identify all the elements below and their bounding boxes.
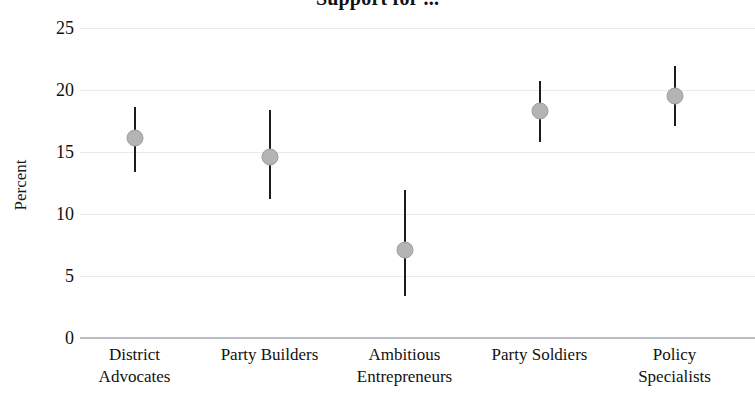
x-tick-label-line: Specialists bbox=[600, 366, 750, 388]
gridline bbox=[80, 214, 755, 215]
gridline bbox=[80, 90, 755, 91]
y-tick-label: 25 bbox=[40, 19, 74, 37]
gridline bbox=[80, 276, 755, 277]
y-axis-label: Percent bbox=[6, 120, 36, 250]
x-tick-label-line: Advocates bbox=[60, 366, 210, 388]
y-axis-label-text: Percent bbox=[11, 160, 31, 211]
x-tick-label: AmbitiousEntrepreneurs bbox=[330, 344, 480, 388]
x-axis-tick-labels: DistrictAdvocatesParty BuildersAmbitious… bbox=[80, 344, 755, 410]
data-point-marker bbox=[531, 103, 548, 120]
chart-figure: Support for ... Percent 0510152025 Distr… bbox=[0, 0, 755, 412]
y-tick-label: 5 bbox=[40, 267, 74, 285]
x-tick-label: PolicySpecialists bbox=[600, 344, 750, 388]
x-tick-label: Party Builders bbox=[195, 344, 345, 366]
gridline bbox=[80, 28, 755, 29]
y-tick-label: 20 bbox=[40, 81, 74, 99]
x-tick-label-line: Party Builders bbox=[195, 344, 345, 366]
data-point-marker bbox=[261, 148, 278, 165]
y-tick-label: 10 bbox=[40, 205, 74, 223]
y-tick-label: 15 bbox=[40, 143, 74, 161]
axis-baseline bbox=[80, 337, 755, 339]
data-point-marker bbox=[396, 241, 413, 258]
x-tick-label: Party Soldiers bbox=[465, 344, 615, 366]
x-tick-label-line: Ambitious bbox=[330, 344, 480, 366]
x-tick-label-line: Entrepreneurs bbox=[330, 366, 480, 388]
data-point-marker bbox=[126, 130, 143, 147]
x-tick-label-line: Party Soldiers bbox=[465, 344, 615, 366]
data-point-marker bbox=[666, 88, 683, 105]
x-tick-label-line: Policy bbox=[600, 344, 750, 366]
gridline bbox=[80, 152, 755, 153]
x-tick-label: DistrictAdvocates bbox=[60, 344, 210, 388]
x-tick-label-line: District bbox=[60, 344, 210, 366]
